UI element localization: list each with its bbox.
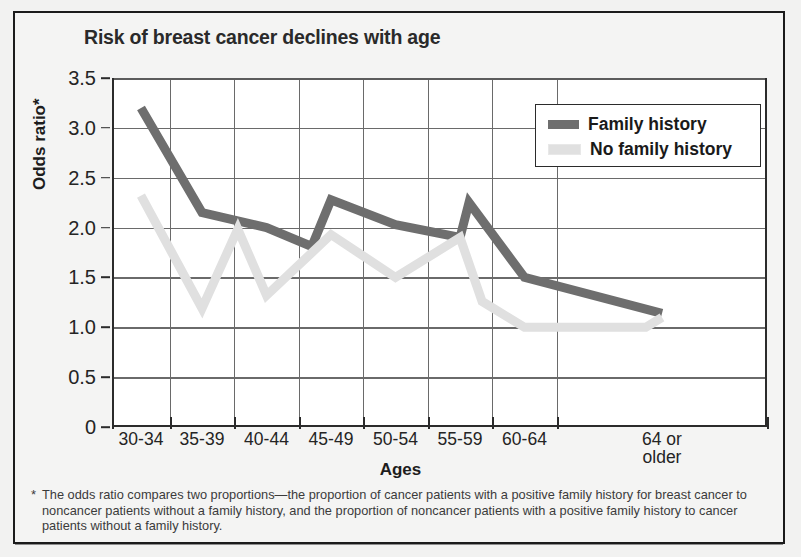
y-tick-mark (101, 127, 110, 129)
legend-label-no-family-history: No family history (590, 139, 732, 160)
chart-title: Risk of breast cancer declines with age (84, 26, 744, 52)
chart-legend: Family history No family history (535, 104, 761, 167)
axis-right (765, 78, 767, 427)
footnote-marker: * (31, 487, 36, 503)
legend-item-family-history: Family history (548, 112, 760, 137)
y-tick-mark (101, 227, 110, 229)
x-tick-mark (234, 417, 236, 429)
legend-label-family-history: Family history (588, 114, 707, 135)
axis-left (112, 78, 114, 427)
x-tick-mark (170, 417, 172, 429)
footnote-text: The odds ratio compares two proportions—… (42, 487, 747, 533)
y-tick-mark (101, 77, 110, 79)
y-tick-mark (101, 376, 110, 378)
axis-top (112, 78, 767, 80)
x-tick-mark (428, 417, 430, 429)
x-axis-title: Ages (0, 460, 801, 480)
y-tick-mark (101, 277, 110, 279)
legend-swatch-no-family-history (548, 144, 581, 155)
footnote: * The odds ratio compares two proportion… (42, 487, 754, 534)
x-tick-label: 60-64 (479, 430, 571, 448)
x-tick-mark (299, 417, 301, 429)
y-tick-mark (101, 326, 110, 328)
x-tick-mark (363, 417, 365, 429)
x-tick-mark (767, 417, 769, 429)
x-tick-mark (492, 417, 494, 429)
x-tick-mark (112, 417, 114, 429)
y-tick-label: 3.0 (68, 116, 96, 139)
legend-item-no-family-history: No family history (548, 137, 760, 162)
y-tick-label: 0.5 (68, 366, 96, 389)
y-axis-title: Odds ratio* (30, 98, 50, 190)
y-tick-label: 1.0 (68, 316, 96, 339)
x-tick-mark (557, 417, 559, 429)
footer-divider (15, 544, 783, 546)
axis-bottom (112, 425, 767, 427)
y-tick-mark (101, 426, 110, 428)
chart-page: Risk of breast cancer declines with age … (0, 0, 801, 557)
y-tick-mark (101, 177, 110, 179)
y-tick-label: 2.0 (68, 216, 96, 239)
legend-swatch-family-history (548, 120, 579, 129)
y-tick-label: 1.5 (68, 266, 96, 289)
y-tick-label: 2.5 (68, 166, 96, 189)
y-tick-label: 3.5 (68, 67, 96, 90)
